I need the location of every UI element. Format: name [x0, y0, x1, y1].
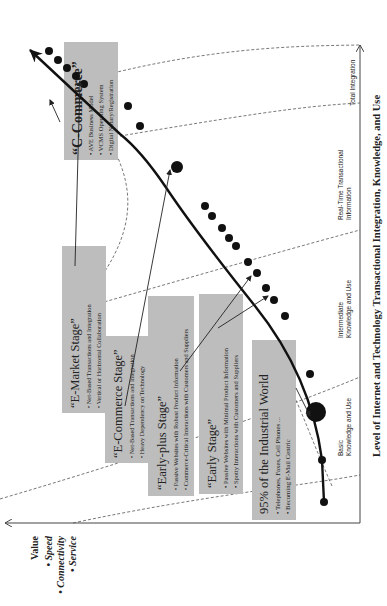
value-item-service: • Service — [67, 535, 78, 572]
stage-bullet: • Passive Websites with Robust Product I… — [172, 357, 179, 490]
stage-bullet: • Net-Based Transactions and Integration — [128, 353, 135, 458]
stage-bullet: • Telephones, Faxes, Cell Phones ... — [274, 417, 281, 514]
stage-bullet: • Digital Notary/Registration — [107, 79, 114, 155]
value-title: Value — [29, 535, 40, 560]
value-item-connectivity: • Connectivity — [55, 535, 66, 593]
level-intermediate-2: Knowledge and Use — [345, 279, 353, 338]
rotated-diagram: Value • Speed • Connectivity • Service L… — [0, 42, 382, 594]
stage-box-e-market: “E-Market Stage” • Net-Based Transaction… — [62, 246, 106, 413]
stage-title: “Early Stage” — [205, 419, 219, 488]
value-item-speed: • Speed — [43, 535, 54, 566]
level-labels: Basic Knowledge and Use Intermediate Kno… — [337, 59, 357, 456]
diagram-canvas: Value • Speed • Connectivity • Service L… — [0, 0, 387, 606]
stage-bullet: • Heavy Dependency on Technology — [138, 365, 145, 458]
stage-box-industrial-world: 95% of the Industrial World • Telephones… — [252, 340, 296, 520]
stage-bullet: • Spotty Interactions with Customers and… — [232, 355, 239, 488]
stage-box-early: “Early Stage” • Passive Websites with Mi… — [199, 294, 243, 494]
level-basic-1: Basic — [337, 439, 344, 456]
level-basic-2: Knowledge and Use — [345, 397, 353, 456]
stage-bullet: • Vertical or Horizontal Collaboration — [95, 312, 102, 408]
stage-bullet: • Passive Websites with Minimal Product … — [222, 347, 229, 488]
stage-title: “E-Market Stage” — [68, 318, 82, 408]
stage-box-early-plus: “Early-plus Stage” • Passive Websites wi… — [148, 296, 194, 496]
value-axis-label: Value • Speed • Connectivity • Service — [29, 535, 78, 594]
boundary-arc-4 — [120, 103, 360, 136]
level-intermediate-1: Intermediate — [337, 301, 344, 338]
level-realtime-1: Real-Time Transactional — [337, 149, 344, 220]
level-realtime-2: Information — [345, 187, 352, 220]
stage-bullet: • Net-Based Transactions and Integration — [85, 303, 92, 408]
stage-title: “Early-plus Stage” — [155, 396, 169, 490]
stage-bullet: • Commerce-Critical Interactions with Cu… — [182, 328, 189, 490]
x-axis-title: Level of Internet and Technology Transac… — [371, 95, 382, 458]
stage-title: 95% of the Industrial World — [257, 374, 271, 514]
level-total: Total Integration — [349, 59, 357, 106]
stage-title: “E-Commerce Stage” — [111, 349, 125, 458]
stage-bullet: • Becoming E-Mail Centric — [284, 439, 291, 514]
stage-box-c-commerce: “C-Commerce” • AVE Business Model • VCMS… — [64, 42, 118, 160]
stage-box-e-commerce: “E-Commerce Stage” • Net-Based Transacti… — [105, 336, 149, 463]
